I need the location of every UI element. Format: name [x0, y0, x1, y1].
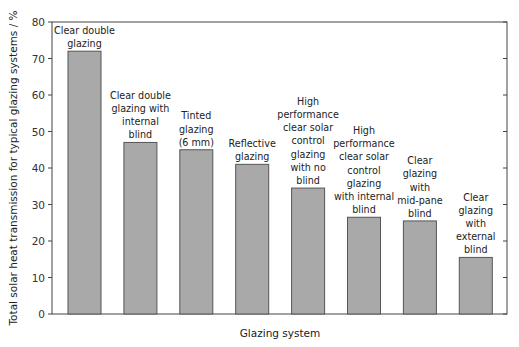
- bar-category-label: Tintedglazing(6 mm): [179, 110, 214, 147]
- y-tick-label: 50: [32, 126, 45, 138]
- y-axis-title-text: Total solar heat transmission for typica…: [7, 10, 19, 326]
- bar: [180, 150, 213, 314]
- bar-category-label: Highperformanceclear solarcontrolglazing…: [333, 125, 395, 215]
- bar: [124, 142, 157, 314]
- bar-category-label: Highperformanceclear solarcontrolglazing…: [277, 96, 339, 186]
- y-tick-label: 0: [38, 308, 45, 320]
- bar: [68, 51, 101, 314]
- bar-category-label: Clearglazingwithmid-paneblind: [397, 155, 443, 219]
- y-tick-label: 20: [32, 235, 45, 247]
- y-tick-label: 30: [32, 199, 45, 211]
- x-axis-title: Glazing system: [240, 327, 321, 339]
- plot-frame: [52, 22, 507, 314]
- bar-category-label: Clearglazingwithexternalblind: [456, 192, 495, 256]
- bar: [459, 257, 492, 314]
- y-tick-label: 80: [32, 16, 45, 28]
- y-tick-label: 40: [32, 162, 45, 174]
- bar: [236, 164, 269, 314]
- y-tick-label: 60: [32, 89, 45, 101]
- y-tick-label: 70: [32, 53, 45, 65]
- bar: [403, 221, 436, 314]
- y-axis-title: Total solar heat transmission for typica…: [7, 10, 19, 326]
- bar-chart: Total solar heat transmission for typica…: [0, 0, 519, 347]
- bar-category-label: Clear doubleglazing withinternalblind: [110, 90, 171, 141]
- bar-category-label: Clear doubleglazing: [54, 25, 115, 49]
- bar-category-label: Reflectiveglazing: [229, 138, 276, 162]
- y-tick-label: 10: [32, 272, 45, 284]
- bar: [348, 217, 381, 314]
- bar: [292, 188, 325, 314]
